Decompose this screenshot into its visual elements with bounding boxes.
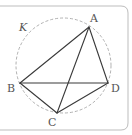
point-label-a: A — [89, 12, 99, 25]
segment-ad — [89, 27, 108, 83]
circle-k — [16, 18, 111, 113]
segment-cd — [57, 83, 108, 113]
point-label-b: B — [7, 82, 15, 95]
circle-label-k: K — [18, 21, 28, 34]
point-label-d: D — [111, 82, 120, 95]
point-label-c: C — [48, 116, 56, 129]
segment-bc — [20, 83, 57, 113]
geometry-figure: K A B C D — [0, 0, 132, 135]
segments-group — [20, 27, 108, 113]
